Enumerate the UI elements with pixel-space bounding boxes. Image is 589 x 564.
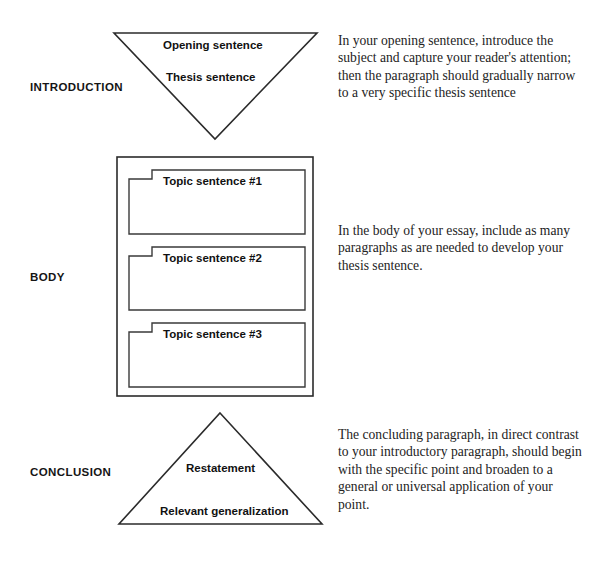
description-conclusion: The concluding paragraph, in direct cont… (338, 426, 586, 513)
conclusion-item-relevant-generalization: Relevant generalization (160, 505, 288, 517)
body-item-topic-sentence-1: Topic sentence #1 (163, 175, 262, 187)
stage-label-introduction: INTRODUCTION (30, 81, 123, 93)
body-item-topic-sentence-2: Topic sentence #2 (163, 252, 262, 264)
stage-label-body: BODY (30, 271, 65, 283)
body-item-topic-sentence-3: Topic sentence #3 (163, 328, 262, 340)
introduction-item-thesis-sentence: Thesis sentence (166, 71, 255, 83)
body-outer-rectangle-shape (117, 157, 313, 396)
description-body: In the body of your essay, include as ma… (338, 222, 586, 274)
introduction-item-opening-sentence: Opening sentence (163, 39, 263, 51)
stage-label-conclusion: CONCLUSION (30, 466, 111, 478)
essay-structure-diagram: INTRODUCTION BODY CONCLUSION Opening sen… (0, 0, 589, 564)
description-introduction: In your opening sentence, introduce the … (338, 32, 586, 102)
conclusion-item-restatement: Restatement (186, 462, 255, 474)
